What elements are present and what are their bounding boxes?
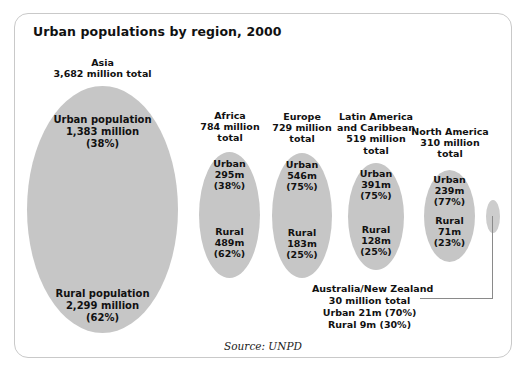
africa-rural-line3: (62%) xyxy=(199,248,260,259)
north-america-rural-line1: Rural xyxy=(424,215,475,226)
africa-rural-line2: 489m xyxy=(199,237,260,248)
asia-urban-label: Urban population 1,383 million (38%) xyxy=(27,114,178,149)
africa-urban-line3: (38%) xyxy=(199,180,260,191)
africa-urban-label: Urban 295m (38%) xyxy=(199,158,260,192)
north-america-urban-label: Urban 239m (77%) xyxy=(424,174,475,208)
australia-nz-ellipse xyxy=(486,200,500,233)
north-america-rural-line2: 71m xyxy=(424,226,475,237)
page-title: Urban populations by region, 2000 xyxy=(33,24,282,39)
asia-total: 3,682 million total xyxy=(27,68,178,79)
africa-urban-line2: 295m xyxy=(199,169,260,180)
asia-urban-line3: (38%) xyxy=(27,138,178,150)
asia-rural-line2: 2,299 million xyxy=(27,300,178,312)
north-america-urban-line1: Urban xyxy=(424,174,475,185)
asia-urban-line2: 1,383 million xyxy=(27,126,178,138)
australia-nz-urban: Urban 21m (70%) xyxy=(312,307,427,319)
australia-nz-leader-horizontal xyxy=(420,298,493,299)
north-america-total-line2: total xyxy=(406,148,494,159)
europe-urban-line3: (75%) xyxy=(272,181,332,192)
latin-america-rural-label: Rural 128m (25%) xyxy=(348,224,404,258)
africa-rural-label: Rural 489m (62%) xyxy=(199,226,260,260)
latin-america-urban-label: Urban 391m (75%) xyxy=(348,168,404,202)
latin-america-rural-line2: 128m xyxy=(348,235,404,246)
latin-america-urban-line1: Urban xyxy=(348,168,404,179)
asia-urban-line1: Urban population xyxy=(27,114,178,126)
australia-nz-total: 30 million total xyxy=(312,295,427,307)
north-america-rural-line3: (23%) xyxy=(424,237,475,248)
asia-rural-label: Rural population 2,299 million (62%) xyxy=(27,288,178,323)
africa-rural-line1: Rural xyxy=(199,226,260,237)
north-america-total-line1: 310 million xyxy=(406,137,494,148)
europe-rural-label: Rural 183m (25%) xyxy=(272,227,332,261)
australia-nz-name: Australia/New Zealand xyxy=(312,283,427,295)
europe-urban-line1: Urban xyxy=(272,159,332,170)
europe-urban-label: Urban 546m (75%) xyxy=(272,159,332,193)
europe-rural-line2: 183m xyxy=(272,238,332,249)
figure-canvas: Urban populations by region, 2000 Asia 3… xyxy=(0,0,526,371)
latin-america-name-line1: Latin America xyxy=(331,111,421,122)
north-america-header: North America 310 million total xyxy=(406,126,494,160)
latin-america-rural-line1: Rural xyxy=(348,224,404,235)
europe-rural-line3: (25%) xyxy=(272,249,332,260)
source-note: Source: UNPD xyxy=(0,340,526,352)
australia-nz-note: Australia/New Zealand 30 million total U… xyxy=(312,283,427,331)
europe-rural-line1: Rural xyxy=(272,227,332,238)
latin-america-urban-line3: (75%) xyxy=(348,190,404,201)
australia-nz-leader-vertical xyxy=(492,216,493,299)
asia-rural-line1: Rural population xyxy=(27,288,178,300)
asia-rural-line3: (62%) xyxy=(27,312,178,324)
asia-name: Asia xyxy=(27,57,178,68)
north-america-urban-line3: (77%) xyxy=(424,196,475,207)
australia-nz-rural: Rural 9m (30%) xyxy=(312,319,427,331)
africa-urban-line1: Urban xyxy=(199,158,260,169)
north-america-urban-line2: 239m xyxy=(424,185,475,196)
latin-america-urban-line2: 391m xyxy=(348,179,404,190)
north-america-name: North America xyxy=(406,126,494,137)
latin-america-rural-line3: (25%) xyxy=(348,246,404,257)
asia-header: Asia 3,682 million total xyxy=(27,57,178,79)
north-america-rural-label: Rural 71m (23%) xyxy=(424,215,475,249)
europe-urban-line2: 546m xyxy=(272,170,332,181)
